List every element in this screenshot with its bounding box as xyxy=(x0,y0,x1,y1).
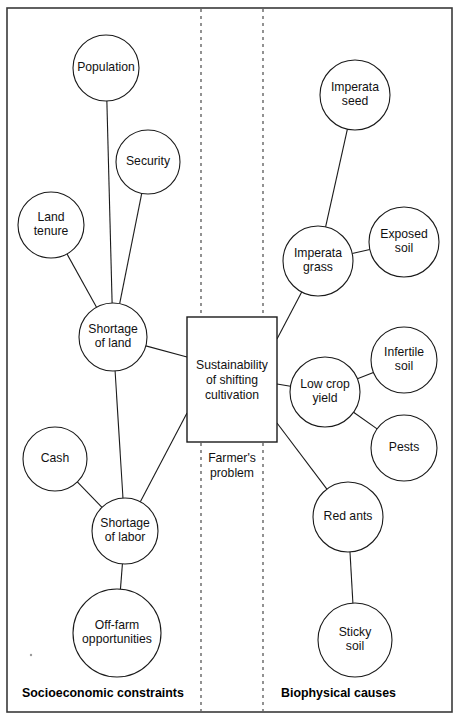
node-label-off_farm_opportunities: opportunities xyxy=(82,632,152,646)
section-biophysical: Biophysical causes xyxy=(281,686,396,700)
center-box[interactable]: Sustainabilityof shiftingcultivation xyxy=(187,317,277,442)
node-label-infertile_soil: Infertile xyxy=(384,345,424,359)
node-label-shortage_of_labor: of labor xyxy=(105,530,146,544)
node-land_tenure[interactable]: Landtenure xyxy=(18,192,84,258)
node-label-shortage_of_labor: Shortage xyxy=(100,516,150,530)
center-box-label: Sustainability xyxy=(196,358,269,372)
edge-infertile_soil-low_crop_yield xyxy=(357,372,373,378)
node-population[interactable]: Population xyxy=(73,35,139,101)
node-sticky_soil[interactable]: Stickysoil xyxy=(318,603,392,677)
edge-off_farm_opportunities-shortage_of_labor xyxy=(120,564,122,589)
edge-imperata_grass-box xyxy=(277,292,302,339)
node-imperata_grass[interactable]: Imperatagrass xyxy=(283,226,353,296)
node-label-exposed_soil: soil xyxy=(395,241,413,255)
edge-land_tenure-shortage_of_land xyxy=(67,254,97,307)
section-socioeconomic: Socioeconomic constraints xyxy=(22,686,184,700)
edge-sticky_soil-red_ants xyxy=(350,552,353,603)
node-security[interactable]: Security xyxy=(116,130,180,194)
node-label-security: Security xyxy=(126,154,171,168)
edge-red_ants-box xyxy=(277,423,327,489)
edge-low_crop_yield-box xyxy=(277,384,290,386)
edge-shortage_of_land-box xyxy=(146,346,187,357)
node-shortage_of_land[interactable]: Shortageof land xyxy=(79,303,147,371)
node-label-land_tenure: tenure xyxy=(34,224,69,238)
edge-shortage_of_labor-box xyxy=(140,413,187,502)
edge-exposed_soil-imperata_grass xyxy=(352,250,370,254)
node-label-red_ants: Red ants xyxy=(324,509,373,523)
node-off_farm_opportunities[interactable]: Off-farmopportunities xyxy=(73,589,161,677)
node-cash[interactable]: Cash xyxy=(23,427,87,491)
edge-security-shortage_of_land xyxy=(120,193,142,303)
node-label-pests: Pests xyxy=(389,440,419,454)
farmers-problem-caption: problem xyxy=(210,466,254,480)
page-speck xyxy=(30,654,32,656)
node-label-shortage_of_land: Shortage xyxy=(88,322,138,336)
node-label-off_farm_opportunities: Off-farm xyxy=(95,618,139,632)
node-label-low_crop_yield: Low crop xyxy=(300,377,350,391)
node-shortage_of_labor[interactable]: Shortageof labor xyxy=(92,498,158,564)
node-red_ants[interactable]: Red ants xyxy=(313,482,383,552)
node-label-imperata_seed: Imperata xyxy=(331,80,379,94)
edge-pests-low_crop_yield xyxy=(354,412,378,429)
edge-population-shortage_of_land xyxy=(107,101,112,303)
center-box-label: of shifting xyxy=(206,373,258,387)
node-label-cash: Cash xyxy=(41,451,69,465)
node-low_crop_yield[interactable]: Low cropyield xyxy=(290,357,360,427)
node-label-infertile_soil: soil xyxy=(395,359,413,373)
node-label-imperata_grass: Imperata xyxy=(294,246,342,260)
node-label-land_tenure: Land xyxy=(37,210,64,224)
edge-imperata_seed-imperata_grass xyxy=(326,129,348,227)
node-label-sticky_soil: soil xyxy=(346,639,364,653)
node-pests[interactable]: Pests xyxy=(371,415,437,481)
concept-diagram: PopulationSecurityLandtenureShortageof l… xyxy=(0,0,460,722)
edge-cash-shortage_of_labor xyxy=(77,482,102,507)
node-infertile_soil[interactable]: Infertilesoil xyxy=(371,327,437,393)
diagram-page: PopulationSecurityLandtenureShortageof l… xyxy=(0,0,460,722)
node-label-shortage_of_land: of land xyxy=(95,336,132,350)
center-box-label: cultivation xyxy=(205,388,259,402)
node-label-imperata_seed: seed xyxy=(342,94,368,108)
node-label-exposed_soil: Exposed xyxy=(380,227,427,241)
edge-shortage_of_land-shortage_of_labor xyxy=(115,371,123,498)
node-label-sticky_soil: Sticky xyxy=(339,625,372,639)
node-imperata_seed[interactable]: Imperataseed xyxy=(320,60,390,130)
center-box-layer: Sustainabilityof shiftingcultivation xyxy=(187,317,277,442)
node-label-population: Population xyxy=(77,60,135,74)
node-exposed_soil[interactable]: Exposedsoil xyxy=(369,207,439,277)
farmers-problem-caption: Farmer's xyxy=(208,451,256,465)
node-label-imperata_grass: grass xyxy=(303,260,333,274)
node-label-low_crop_yield: yield xyxy=(312,391,337,405)
